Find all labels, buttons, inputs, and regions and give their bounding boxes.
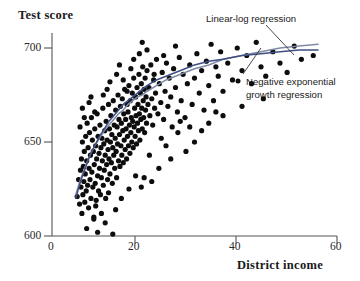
data-point — [80, 139, 85, 144]
data-point — [113, 136, 118, 141]
data-point — [140, 40, 145, 45]
data-point — [147, 153, 152, 158]
data-point — [152, 72, 157, 77]
data-point — [98, 192, 103, 197]
data-point — [175, 109, 180, 114]
data-point — [141, 115, 146, 120]
data-point — [199, 68, 204, 73]
data-point — [77, 201, 82, 206]
data-point — [218, 49, 223, 54]
data-point — [147, 113, 152, 118]
data-point — [161, 117, 166, 122]
data-point — [114, 149, 119, 154]
data-point — [145, 102, 150, 107]
data-point — [173, 44, 178, 49]
data-point — [81, 179, 86, 184]
data-point — [103, 196, 108, 201]
plot-canvas — [0, 0, 360, 281]
data-point — [201, 107, 206, 112]
data-point — [124, 89, 129, 94]
data-point — [99, 211, 104, 216]
data-point — [311, 53, 316, 58]
data-point — [156, 166, 161, 171]
data-point — [101, 183, 106, 188]
data-point — [126, 83, 131, 88]
data-point — [92, 126, 97, 131]
data-point — [192, 75, 197, 80]
data-point — [108, 139, 113, 144]
data-point — [175, 130, 180, 135]
data-point — [95, 230, 100, 235]
data-point — [93, 203, 98, 208]
data-point — [92, 162, 97, 167]
data-point — [142, 130, 147, 135]
data-point — [187, 124, 192, 129]
data-point — [137, 111, 142, 116]
data-point — [110, 232, 115, 237]
data-point — [91, 216, 96, 221]
data-point — [159, 136, 164, 141]
data-point — [197, 91, 202, 96]
data-point — [94, 198, 99, 203]
data-point — [163, 143, 168, 148]
data-point — [158, 100, 163, 105]
data-point — [120, 96, 125, 101]
data-point — [209, 42, 214, 47]
data-point — [117, 62, 122, 67]
data-point — [105, 147, 110, 152]
data-point — [177, 55, 182, 60]
data-point — [114, 175, 119, 180]
data-point — [149, 96, 154, 101]
data-point — [249, 81, 254, 86]
data-point — [220, 113, 225, 118]
data-point — [139, 81, 144, 86]
data-point — [170, 124, 175, 129]
data-point — [106, 190, 111, 195]
data-point — [84, 188, 89, 193]
data-point — [84, 226, 89, 231]
data-point — [140, 64, 145, 69]
data-point — [164, 60, 169, 65]
data-point — [131, 75, 136, 80]
data-point — [162, 89, 167, 94]
data-point — [143, 75, 148, 80]
data-point — [96, 151, 101, 156]
data-point — [168, 94, 173, 99]
regression-curve — [76, 44, 318, 194]
data-point — [230, 77, 235, 82]
data-point — [80, 106, 85, 111]
data-point — [103, 220, 108, 225]
data-point — [144, 47, 149, 52]
data-point — [119, 121, 124, 126]
data-point — [136, 72, 141, 77]
data-point — [239, 104, 244, 109]
scatter-points — [75, 40, 316, 237]
data-point — [90, 138, 95, 143]
data-point — [119, 196, 124, 201]
data-point — [130, 119, 135, 124]
data-point — [105, 177, 110, 182]
data-point — [235, 45, 240, 50]
data-point — [213, 109, 218, 114]
data-point — [93, 181, 98, 186]
data-point — [79, 211, 84, 216]
data-point — [263, 74, 268, 79]
data-point — [299, 57, 304, 62]
data-point — [133, 173, 138, 178]
data-point — [216, 74, 221, 79]
data-point — [143, 94, 148, 99]
data-point — [143, 107, 148, 112]
data-point — [155, 111, 160, 116]
scatter-plot-figure: Test score District income 700 650 600 0… — [0, 0, 360, 281]
data-point — [133, 134, 138, 139]
data-point — [192, 139, 197, 144]
data-point — [148, 62, 153, 67]
data-point — [225, 60, 230, 65]
data-point — [99, 175, 104, 180]
data-point — [121, 77, 126, 82]
data-point — [220, 89, 225, 94]
data-point — [178, 119, 183, 124]
data-point — [88, 94, 93, 99]
data-point — [165, 104, 170, 109]
data-point — [86, 145, 91, 150]
